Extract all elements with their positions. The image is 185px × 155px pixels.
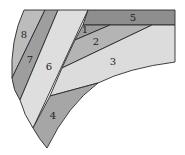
label-1: 1 xyxy=(82,24,88,35)
label-3: 3 xyxy=(110,56,116,67)
label-8: 8 xyxy=(21,29,27,40)
label-4: 4 xyxy=(50,110,56,121)
label-5: 5 xyxy=(130,12,136,23)
region-diagram: 1 2 3 4 5 6 7 8 xyxy=(0,0,185,155)
label-2: 2 xyxy=(93,36,99,47)
label-7: 7 xyxy=(27,54,33,65)
label-6: 6 xyxy=(46,61,52,72)
